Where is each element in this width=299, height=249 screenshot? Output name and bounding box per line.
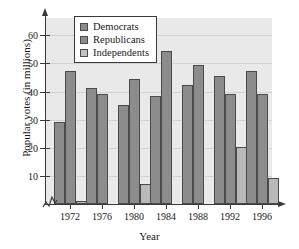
bar-1976-republicans bbox=[97, 94, 108, 204]
y-tick-50 bbox=[40, 63, 50, 64]
y-tick-30 bbox=[40, 120, 50, 121]
independents-swatch-icon bbox=[80, 49, 88, 57]
bar-1988-republicans bbox=[193, 65, 204, 204]
x-tick-1972 bbox=[70, 204, 71, 209]
democrats-swatch-icon bbox=[80, 23, 88, 31]
legend-label-independents: Independents bbox=[93, 47, 149, 58]
legend-item-democrats: Democrats bbox=[80, 20, 149, 33]
legend-label-democrats: Democrats bbox=[93, 21, 138, 32]
bar-1984-republicans bbox=[161, 51, 172, 204]
bar-chart-popular-votes: 60 50 40 30 20 10 1972 1976 1980 1984 19… bbox=[0, 0, 299, 249]
bar-1984-democrats bbox=[150, 96, 161, 204]
bar-1988-democrats bbox=[182, 85, 193, 204]
legend-item-republicans: Republicans bbox=[80, 33, 149, 46]
axis-break-icon bbox=[41, 190, 59, 208]
x-tick-1988 bbox=[198, 204, 199, 209]
x-tick-label-1996: 1996 bbox=[242, 211, 282, 222]
legend: Democrats Republicans Independents bbox=[74, 16, 157, 63]
x-axis-line bbox=[45, 204, 279, 205]
y-tick-40 bbox=[40, 92, 50, 93]
x-axis-title: Year bbox=[0, 230, 299, 242]
legend-item-independents: Independents bbox=[80, 46, 149, 59]
x-tick-1996 bbox=[262, 204, 263, 209]
y-tick-10 bbox=[40, 176, 50, 177]
x-axis-arrow-icon bbox=[278, 201, 286, 207]
gridline-50 bbox=[46, 63, 272, 64]
republicans-swatch-icon bbox=[80, 36, 88, 44]
x-tick-1976 bbox=[102, 204, 103, 209]
bar-1972-republicans bbox=[65, 71, 76, 204]
gridline-40 bbox=[46, 92, 272, 93]
y-tick-60 bbox=[40, 35, 50, 36]
bar-1992-republicans bbox=[225, 94, 236, 204]
legend-label-republicans: Republicans bbox=[93, 34, 145, 45]
bar-1992-democrats bbox=[214, 76, 225, 204]
x-tick-1992 bbox=[230, 204, 231, 209]
bar-1996-democrats bbox=[246, 71, 257, 204]
bar-1996-republicans bbox=[257, 94, 268, 204]
y-axis-arrow-icon bbox=[42, 8, 48, 16]
bar-1980-republicans bbox=[129, 79, 140, 204]
x-tick-1980 bbox=[134, 204, 135, 209]
y-tick-20 bbox=[40, 148, 50, 149]
y-axis-title: Popular votes (in millions) bbox=[20, 8, 32, 188]
bar-1976-democrats bbox=[86, 88, 97, 204]
bar-1980-democrats bbox=[118, 105, 129, 204]
x-tick-1984 bbox=[166, 204, 167, 209]
